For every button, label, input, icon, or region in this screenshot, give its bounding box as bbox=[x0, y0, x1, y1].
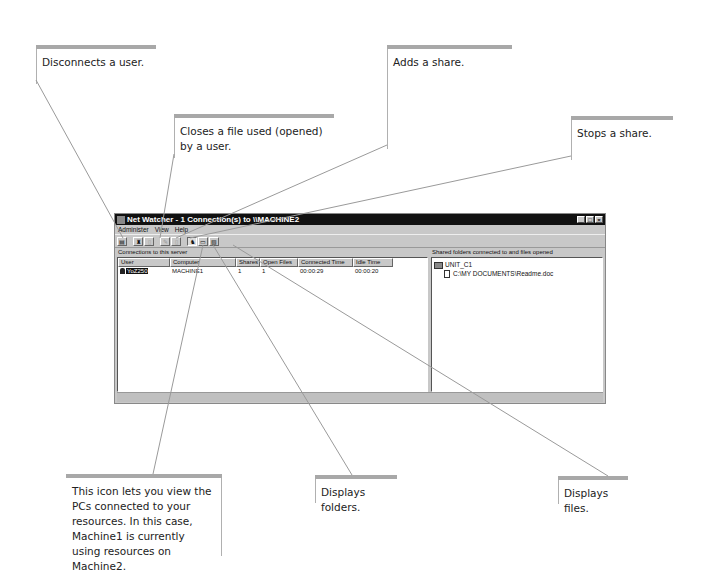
callout-display-folders: Displays folders. bbox=[315, 475, 397, 515]
add-share-icon: ✎ bbox=[163, 238, 168, 245]
callout-display-files: Displays files. bbox=[558, 476, 628, 516]
add-share-button[interactable]: ✎ bbox=[160, 237, 170, 246]
select-server-button[interactable]: ▤ bbox=[117, 237, 127, 246]
disconnect-user-icon: ♜ bbox=[136, 238, 141, 245]
panes: Connections to this server User Computer… bbox=[117, 248, 603, 392]
cell-computer: MACHINE1 bbox=[170, 267, 236, 276]
callout-text: Displays files. bbox=[558, 480, 628, 516]
callout-text: This icon lets you view the PCs connecte… bbox=[66, 478, 222, 574]
table-row[interactable]: YoZ250 MACHINE1 1 1 00:00:29 00:00:20 bbox=[118, 267, 427, 276]
net-watcher-window: Net Watcher - 1 Connection(s) to \\MACHI… bbox=[114, 213, 606, 404]
connections-pane-label: Connections to this server bbox=[117, 248, 428, 257]
callout-close-file: Closes a file used (opened) by a user. bbox=[174, 114, 334, 154]
stop-share-button[interactable]: ▯ bbox=[171, 237, 181, 246]
menu-view[interactable]: View bbox=[155, 226, 169, 233]
menu-administer[interactable]: Administer bbox=[118, 226, 149, 233]
show-files-button[interactable]: ▧ bbox=[209, 237, 219, 246]
callout-text: Closes a file used (opened) by a user. bbox=[174, 118, 334, 154]
tree-item-file[interactable]: C:\MY DOCUMENTS\Readme.doc bbox=[434, 269, 600, 278]
server-icon: ▤ bbox=[119, 238, 125, 245]
status-bar bbox=[117, 392, 603, 402]
cell-shares: 1 bbox=[236, 267, 260, 276]
callout-text: Adds a share. bbox=[387, 49, 512, 70]
cell-user: YoZ250 bbox=[118, 267, 170, 276]
stop-share-icon: ▯ bbox=[175, 238, 178, 245]
users-view-icon: ♞ bbox=[190, 238, 195, 245]
disconnect-user-button[interactable]: ♜ bbox=[133, 237, 143, 246]
window-title: Net Watcher - 1 Connection(s) to \\MACHI… bbox=[127, 215, 577, 224]
column-header-open-files[interactable]: Open Files bbox=[260, 258, 298, 267]
close-button[interactable]: × bbox=[595, 216, 603, 223]
cell-open-files: 1 bbox=[260, 267, 298, 276]
show-folders-button[interactable]: ▭ bbox=[198, 237, 208, 246]
user-icon bbox=[120, 268, 125, 274]
callout-vline bbox=[174, 118, 175, 158]
net-watcher-app-icon bbox=[117, 216, 125, 224]
callout-vline bbox=[387, 49, 388, 149]
folders-view-icon: ▭ bbox=[200, 238, 206, 245]
tree-item-folder[interactable]: UNIT_C1 bbox=[434, 260, 600, 269]
callout-disconnect-user: Disconnects a user. bbox=[36, 45, 156, 70]
column-header-shares[interactable]: Shares bbox=[236, 258, 260, 267]
callout-vline bbox=[558, 480, 559, 504]
maximize-button[interactable]: □ bbox=[586, 216, 594, 223]
menu-bar: Administer View Help bbox=[115, 225, 605, 234]
callout-text: Disconnects a user. bbox=[36, 49, 156, 70]
callout-vline bbox=[571, 120, 572, 160]
connections-list: User Computer Shares Open Files Connecte… bbox=[117, 257, 428, 392]
title-bar[interactable]: Net Watcher - 1 Connection(s) to \\MACHI… bbox=[115, 214, 605, 225]
callout-add-share: Adds a share. bbox=[387, 45, 512, 70]
column-headers: User Computer Shares Open Files Connecte… bbox=[118, 258, 427, 267]
callout-view-pcs: This icon lets you view the PCs connecte… bbox=[66, 474, 222, 574]
callout-vline bbox=[221, 478, 222, 556]
callout-vline bbox=[36, 49, 37, 84]
files-view-icon: ▧ bbox=[211, 238, 217, 245]
close-file-icon: ▯ bbox=[148, 238, 151, 245]
connections-pane: Connections to this server User Computer… bbox=[117, 248, 428, 392]
close-file-button[interactable]: ▯ bbox=[144, 237, 154, 246]
column-header-connected-time[interactable]: Connected Time bbox=[298, 258, 353, 267]
callout-text: Stops a share. bbox=[571, 120, 673, 141]
shared-folders-pane-label: Shared folders connected to and files op… bbox=[431, 248, 603, 257]
column-header-computer[interactable]: Computer bbox=[170, 258, 236, 267]
minimize-button[interactable]: _ bbox=[577, 216, 585, 223]
callout-stop-share: Stops a share. bbox=[571, 116, 673, 141]
callout-text: Displays folders. bbox=[315, 479, 397, 515]
shared-folders-pane: Shared folders connected to and files op… bbox=[431, 248, 603, 392]
column-header-idle-time[interactable]: Idle Time bbox=[353, 258, 393, 267]
shared-folder-icon bbox=[434, 262, 443, 269]
cell-idle-time: 00:00:20 bbox=[353, 267, 393, 276]
menu-help[interactable]: Help bbox=[175, 226, 188, 233]
toolbar: ▤ ♜ ▯ ✎ ▯ ♞ ▭ ▧ bbox=[115, 234, 605, 248]
column-header-user[interactable]: User bbox=[118, 258, 170, 267]
cell-connected-time: 00:00:29 bbox=[298, 267, 353, 276]
shared-folders-tree: UNIT_C1 C:\MY DOCUMENTS\Readme.doc bbox=[431, 257, 603, 392]
show-users-button[interactable]: ♞ bbox=[187, 237, 197, 246]
document-icon bbox=[444, 270, 450, 278]
callout-vline bbox=[315, 479, 316, 503]
